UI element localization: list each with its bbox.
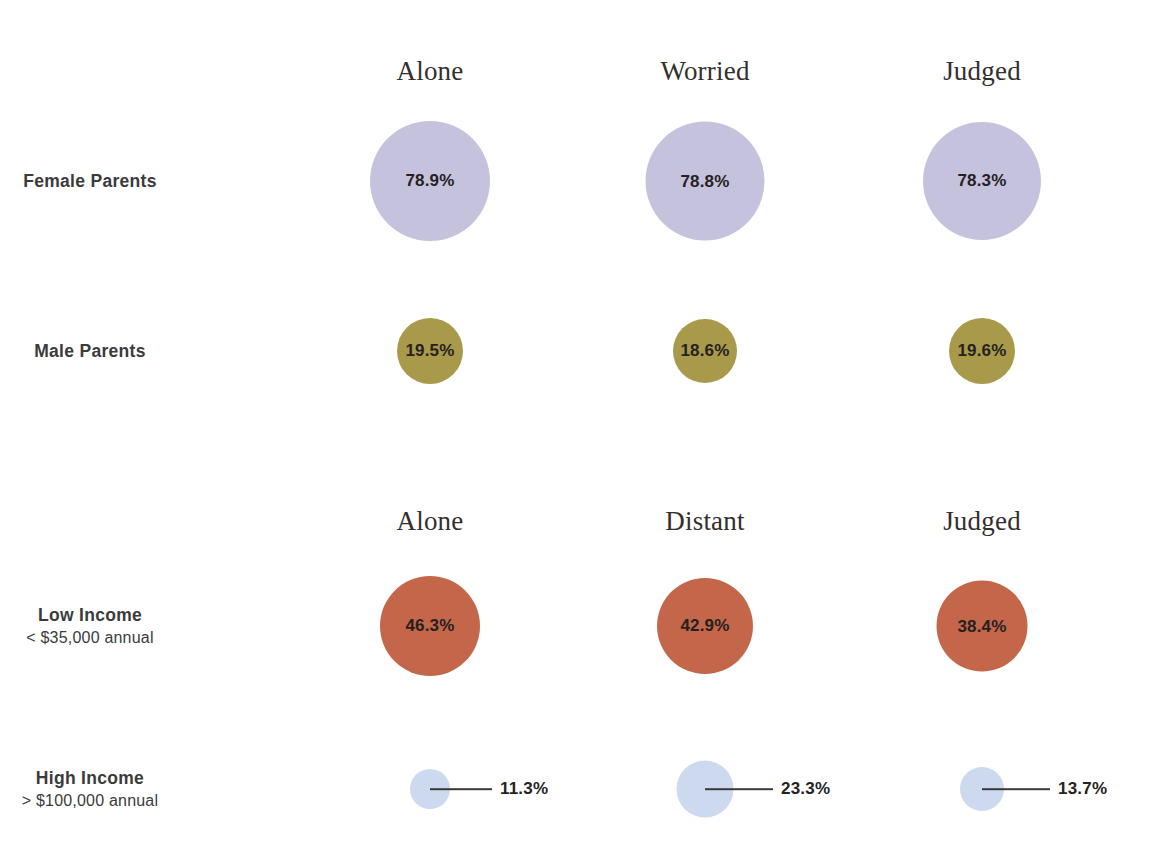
bubble-male-parents-worried: 18.6% — [673, 319, 737, 383]
bubble-male-parents-alone: 19.5% — [397, 318, 463, 384]
bubble-value-high-income-distant: 23.3% — [781, 779, 830, 799]
bubble-male-parents-judged: 19.6% — [949, 318, 1015, 384]
panel-income: Alone Distant Judged Low Income < $35,00… — [0, 470, 1154, 867]
row-label-high-income-sub: > $100,000 annual — [0, 791, 240, 811]
leader-line-high-income-judged — [982, 788, 1050, 790]
bubble-value: 38.4% — [957, 616, 1006, 636]
row-label-male-parents-main: Male Parents — [0, 340, 240, 362]
bubble-value: 78.8% — [680, 171, 729, 191]
infographic-canvas: { "chart_data": { "type": "bubble", "tit… — [0, 0, 1154, 867]
bubble-female-parents-worried: 78.8% — [646, 122, 765, 241]
column-header-alone: Alone — [397, 56, 464, 87]
row-label-high-income: High Income > $100,000 annual — [0, 767, 240, 812]
leader-line-high-income-alone — [430, 788, 492, 790]
column-headers-income: Alone Distant Judged — [0, 470, 1154, 510]
bubble-value: 19.6% — [957, 341, 1006, 361]
row-label-low-income-sub: < $35,000 annual — [0, 628, 240, 648]
bubble-low-income-alone: 46.3% — [380, 576, 480, 676]
bubble-female-parents-judged: 78.3% — [923, 122, 1041, 240]
bubble-value: 78.3% — [957, 171, 1006, 191]
row-label-low-income-main: Low Income — [0, 604, 240, 626]
bubble-low-income-judged: 38.4% — [937, 581, 1028, 672]
bubble-value: 19.5% — [405, 341, 454, 361]
row-label-female-parents: Female Parents — [0, 170, 240, 192]
row-label-low-income: Low Income < $35,000 annual — [0, 604, 240, 649]
row-label-male-parents: Male Parents — [0, 340, 240, 362]
column-header-alone: Alone — [397, 506, 464, 537]
bubble-value: 18.6% — [680, 341, 729, 361]
bubble-value: 78.9% — [405, 171, 454, 191]
row-label-female-parents-main: Female Parents — [0, 170, 240, 192]
column-header-distant: Distant — [665, 506, 744, 537]
leader-line-high-income-distant — [705, 788, 773, 790]
row-label-high-income-main: High Income — [0, 767, 240, 789]
bubble-value-high-income-judged: 13.7% — [1058, 779, 1107, 799]
column-header-worried: Worried — [660, 56, 749, 87]
panel-parents: Alone Worried Judged Female Parents 78.9… — [0, 0, 1154, 470]
bubble-low-income-distant: 42.9% — [657, 578, 753, 674]
column-header-judged: Judged — [943, 56, 1021, 87]
column-headers-parents: Alone Worried Judged — [0, 0, 1154, 40]
bubble-value: 46.3% — [405, 616, 454, 636]
bubble-female-parents-alone: 78.9% — [370, 121, 490, 241]
bubble-value: 42.9% — [680, 616, 729, 636]
bubble-value-high-income-alone: 11.3% — [500, 779, 548, 799]
column-header-judged: Judged — [943, 506, 1021, 537]
